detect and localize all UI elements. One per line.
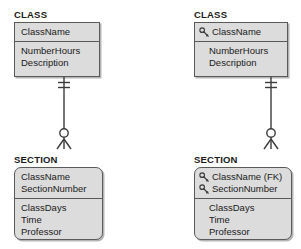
- attribute-compartment: ClassDays Time Professor: [195, 199, 291, 240]
- attribute-compartment: ClassDays Time Professor: [15, 199, 102, 240]
- attribute-label: SectionNumber: [21, 183, 86, 195]
- entity-label-class: CLASS: [14, 9, 47, 20]
- attribute-label: Description: [21, 57, 69, 69]
- attribute-label: ClassName: [212, 26, 261, 38]
- crowsfoot-prong-right: [271, 139, 278, 149]
- attribute-label: Professor: [209, 226, 250, 238]
- attribute-label: ClassName (FK): [212, 171, 282, 183]
- attribute-row[interactable]: ClassName: [15, 26, 99, 38]
- er-diagram-left: CLASS ClassName NumberHours Description: [0, 0, 150, 249]
- attribute-row[interactable]: Professor: [15, 226, 102, 238]
- attribute-row[interactable]: Time: [15, 214, 102, 226]
- attribute-row[interactable]: Professor: [195, 226, 291, 238]
- attribute-row[interactable]: ClassName: [15, 171, 102, 183]
- attribute-label: ClassName: [21, 171, 70, 183]
- attribute-row[interactable]: ClassName (FK): [195, 171, 291, 183]
- cardinality-zero-circle: [60, 129, 68, 137]
- entity-label-section: SECTION: [194, 154, 238, 165]
- attribute-row[interactable]: NumberHours: [15, 45, 99, 57]
- entity-box-section[interactable]: ClassName SectionNumber ClassDays Time P…: [14, 167, 103, 240]
- attribute-row[interactable]: Description: [195, 57, 287, 69]
- attribute-label: ClassDays: [209, 202, 254, 214]
- entity-box-class[interactable]: ClassName NumberHours Description: [14, 22, 100, 77]
- attribute-label: NumberHours: [21, 45, 80, 57]
- attribute-label: Description: [209, 57, 257, 69]
- attribute-label: Professor: [21, 226, 62, 238]
- attribute-label: NumberHours: [209, 45, 268, 57]
- attribute-row[interactable]: SectionNumber: [195, 183, 291, 195]
- attribute-compartment: NumberHours Description: [15, 42, 99, 77]
- entity-box-section[interactable]: ClassName (FK) SectionNumber ClassDays T…: [194, 167, 292, 240]
- er-diagram-right: CLASS ClassName NumberHours Description: [150, 0, 300, 249]
- key-compartment: ClassName: [15, 23, 99, 42]
- cardinality-zero-circle: [267, 129, 275, 137]
- attribute-label: SectionNumber: [212, 183, 277, 195]
- attribute-row[interactable]: ClassDays: [15, 202, 102, 214]
- attribute-label: ClassName: [21, 26, 70, 38]
- relationship-connector[interactable]: [253, 77, 293, 155]
- entity-label-section: SECTION: [14, 154, 58, 165]
- entity-box-class[interactable]: ClassName NumberHours Description: [194, 22, 288, 77]
- key-icon: [199, 184, 210, 195]
- key-icon: [199, 172, 210, 183]
- attribute-label: ClassDays: [21, 202, 66, 214]
- key-icon: [199, 27, 210, 38]
- attribute-label: Time: [209, 214, 230, 226]
- attribute-row[interactable]: Description: [15, 57, 99, 69]
- attribute-label: Time: [21, 214, 42, 226]
- attribute-row[interactable]: ClassDays: [195, 202, 291, 214]
- attribute-row[interactable]: ClassName: [195, 26, 287, 38]
- crowsfoot-prong-left: [264, 139, 271, 149]
- key-compartment: ClassName (FK) SectionNumber: [195, 168, 291, 199]
- key-compartment: ClassName: [195, 23, 287, 42]
- key-compartment: ClassName SectionNumber: [15, 168, 102, 199]
- attribute-row[interactable]: NumberHours: [195, 45, 287, 57]
- attribute-row[interactable]: Time: [195, 214, 291, 226]
- relationship-connector[interactable]: [46, 77, 86, 155]
- entity-label-class: CLASS: [194, 9, 227, 20]
- attribute-row[interactable]: SectionNumber: [15, 183, 102, 195]
- crowsfoot-prong-left: [57, 139, 64, 149]
- crowsfoot-prong-right: [64, 139, 71, 149]
- attribute-compartment: NumberHours Description: [195, 42, 287, 77]
